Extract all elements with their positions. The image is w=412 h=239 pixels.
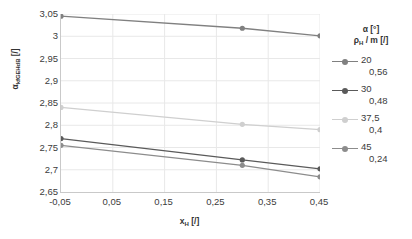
legend-marker-icon xyxy=(342,59,348,65)
legend-alpha-value: 30 xyxy=(361,83,372,94)
legend-marker-icon xyxy=(342,117,348,123)
legend-rho-value: 0,56 xyxy=(369,66,388,77)
horizontal-gridlines xyxy=(61,14,320,170)
x-tick-label: -0,05 xyxy=(38,196,82,207)
data-point xyxy=(61,136,64,141)
x-axis-title-unit: [/] xyxy=(189,216,199,226)
y-tick-label: 2,85 xyxy=(12,98,58,108)
data-point xyxy=(317,166,320,171)
legend-header-rho: ρH / m [/] xyxy=(330,35,412,49)
y-tick-label: 3,05 xyxy=(12,9,58,19)
legend-header-alpha: α [°] xyxy=(330,24,412,35)
x-tick-label: 0,05 xyxy=(90,196,134,207)
y-tick-label: 2,75 xyxy=(12,143,58,153)
legend: α [°] ρH / m [/] 200,56300,4837,50,4450,… xyxy=(330,24,412,165)
legend-entries: 200,56300,4837,50,4450,24 xyxy=(330,54,412,165)
x-axis-title: xH [/] xyxy=(60,216,319,227)
series-line-20 xyxy=(61,16,320,36)
x-axis-tick-labels: -0,050,050,150,250,350,45 xyxy=(60,196,319,210)
y-tick-label: 3 xyxy=(12,31,58,41)
plot-svg xyxy=(61,14,320,192)
legend-swatch xyxy=(332,116,358,124)
legend-rho-value: 0,24 xyxy=(369,153,388,164)
legend-header-rho-unit: / m [/] xyxy=(363,35,388,45)
data-point xyxy=(240,122,245,127)
chart-container: αkfGEHdB [/] 2,652,72,752,82,852,92,9533… xyxy=(0,0,412,239)
legend-item-45[interactable]: 450,24 xyxy=(330,141,412,165)
data-point xyxy=(317,33,320,38)
legend-alpha-value: 45 xyxy=(361,141,372,152)
y-tick-label: 2,9 xyxy=(12,76,58,86)
data-point xyxy=(317,127,320,132)
data-point xyxy=(61,14,64,19)
series-line-375 xyxy=(61,107,320,129)
x-tick-label: 0,35 xyxy=(245,196,289,207)
y-tick-label: 2,8 xyxy=(12,120,58,130)
data-point xyxy=(317,174,320,179)
x-tick-label: 0,45 xyxy=(297,196,341,207)
legend-header-alpha-unit: [°] xyxy=(368,24,379,34)
legend-swatch xyxy=(332,87,358,95)
legend-alpha-value: 20 xyxy=(361,54,372,65)
legend-marker-icon xyxy=(342,146,348,152)
y-tick-label: 2,95 xyxy=(12,54,58,64)
data-point xyxy=(240,26,245,31)
legend-swatch xyxy=(332,145,358,153)
series-markers xyxy=(61,14,320,179)
legend-item-30[interactable]: 300,48 xyxy=(330,83,412,107)
data-point xyxy=(61,105,64,110)
x-tick-label: 0,15 xyxy=(142,196,186,207)
series-lines xyxy=(61,16,320,177)
y-tick-label: 2,7 xyxy=(12,165,58,175)
x-tick-label: 0,25 xyxy=(193,196,237,207)
legend-marker-icon xyxy=(342,88,348,94)
legend-rho-value: 0,48 xyxy=(369,95,388,106)
legend-item-20[interactable]: 200,56 xyxy=(330,54,412,78)
data-point xyxy=(240,163,245,168)
data-point xyxy=(240,157,245,162)
series-line-30 xyxy=(61,139,320,169)
legend-alpha-value: 37,5 xyxy=(361,112,380,123)
legend-rho-value: 0,4 xyxy=(369,124,382,135)
legend-item-375[interactable]: 37,50,4 xyxy=(330,112,412,136)
series-line-45 xyxy=(61,145,320,177)
plot-area xyxy=(60,14,320,193)
legend-swatch xyxy=(332,58,358,66)
